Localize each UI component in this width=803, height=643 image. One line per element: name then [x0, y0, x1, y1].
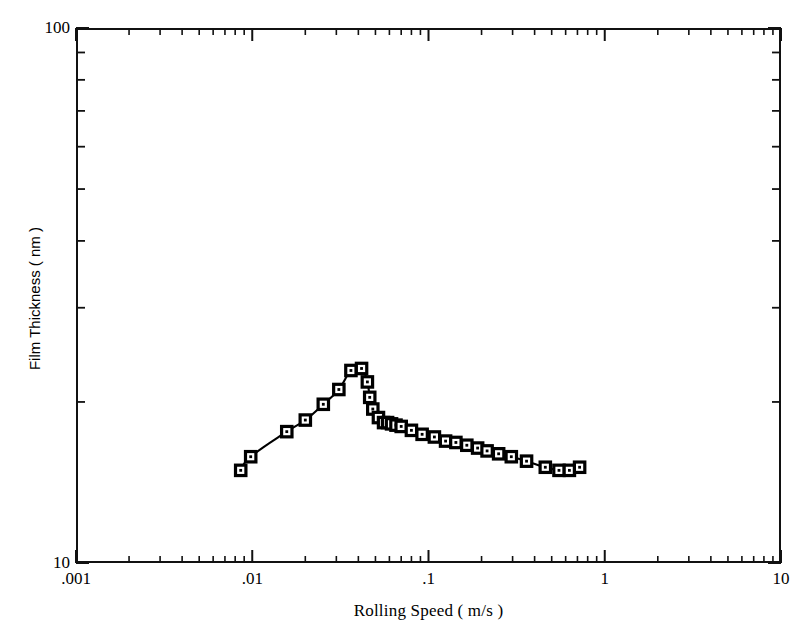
x-axis-title: Rolling Speed ( m/s )	[76, 601, 781, 621]
x-tick-label: .1	[422, 569, 435, 589]
plot-frame	[76, 28, 781, 563]
x-tick-label: 10	[773, 569, 790, 589]
x-tick-label: .001	[61, 569, 91, 589]
x-tick-label: 1	[601, 569, 610, 589]
y-tick-label-100: 100	[42, 18, 70, 38]
x-tick-label: .01	[242, 569, 263, 589]
y-axis-title: Film Thickness ( nm )	[26, 179, 43, 419]
chart-figure: 100 10 .001.01.1110 Rolling Speed ( m/s …	[0, 0, 803, 643]
